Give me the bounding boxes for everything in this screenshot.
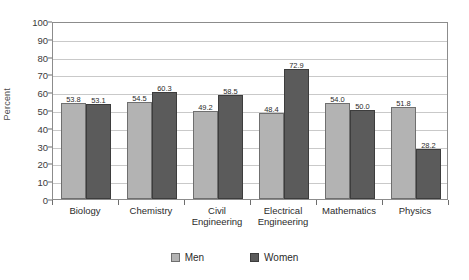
x-axis-tick-mark — [448, 200, 449, 205]
x-axis-tick-mark — [184, 200, 185, 205]
x-axis-tick-mark — [250, 200, 251, 205]
bar-women — [152, 92, 177, 199]
bar-men — [259, 113, 284, 199]
y-axis-tick-label: 50 — [2, 106, 48, 117]
y-axis-tick-label: 70 — [2, 70, 48, 81]
gridline — [53, 148, 447, 149]
legend-swatch-men — [171, 253, 180, 262]
x-axis-tick-mark — [382, 200, 383, 205]
bar-value-label: 48.4 — [264, 105, 279, 114]
bar-value-label: 54.5 — [132, 94, 147, 103]
bar-value-label: 28.2 — [421, 141, 436, 150]
bar-women — [86, 104, 111, 199]
plot-area: 53.853.154.560.349.258.548.472.954.050.0… — [52, 22, 448, 200]
bar-men — [391, 107, 416, 199]
y-axis-tick-label: 40 — [2, 123, 48, 134]
bar-value-label: 60.3 — [157, 84, 172, 93]
bar-men — [325, 103, 350, 199]
bar-value-label: 53.1 — [91, 96, 106, 105]
x-axis-category-label: Biology — [69, 205, 100, 216]
x-axis-tick-mark — [52, 200, 53, 205]
legend-item-women[interactable]: Women — [250, 252, 298, 263]
x-axis-category-label: Electrical Engineering — [258, 205, 309, 227]
x-axis-category-label: Physics — [399, 205, 432, 216]
bar-chart: Percent 1009080706050403020100 53.853.15… — [0, 0, 469, 280]
x-axis-category-label: Civil Engineering — [192, 205, 243, 227]
y-axis-tick-label: 0 — [2, 195, 48, 206]
gridline — [53, 59, 447, 60]
bar-women — [350, 110, 375, 199]
x-axis-category-label: Chemistry — [130, 205, 173, 216]
legend-item-men[interactable]: Men — [171, 252, 204, 263]
y-axis-tick-label: 60 — [2, 88, 48, 99]
bar-value-label: 53.8 — [66, 95, 81, 104]
y-axis-tick-label: 90 — [2, 34, 48, 45]
gridline — [53, 130, 447, 131]
bar-value-label: 54.0 — [330, 95, 345, 104]
chart-legend: MenWomen — [0, 252, 469, 263]
y-axis-tick-label: 20 — [2, 159, 48, 170]
bar-women — [284, 69, 309, 199]
bar-value-label: 49.2 — [198, 103, 213, 112]
bar-value-label: 51.8 — [396, 99, 411, 108]
bar-value-label: 50.0 — [355, 102, 370, 111]
y-axis-tick-label: 10 — [2, 177, 48, 188]
y-axis-tick-labels: 1009080706050403020100 — [0, 0, 48, 280]
bar-men — [127, 102, 152, 199]
bar-value-label: 58.5 — [223, 87, 238, 96]
gridline — [53, 183, 447, 184]
gridline — [53, 112, 447, 113]
y-axis-tick-label: 100 — [2, 17, 48, 28]
legend-label: Women — [264, 252, 298, 263]
bar-men — [193, 111, 218, 199]
x-axis-category-label: Mathematics — [322, 205, 376, 216]
legend-label: Men — [185, 252, 204, 263]
legend-swatch-women — [250, 253, 259, 262]
bar-value-label: 72.9 — [289, 61, 304, 70]
gridline — [53, 76, 447, 77]
x-axis-tick-mark — [118, 200, 119, 205]
y-axis-tick-label: 80 — [2, 52, 48, 63]
gridline — [53, 94, 447, 95]
bar-women — [218, 95, 243, 199]
y-axis-tick-label: 30 — [2, 141, 48, 152]
gridline — [53, 41, 447, 42]
bar-men — [61, 103, 86, 199]
bar-women — [416, 149, 441, 199]
x-axis-tick-mark — [316, 200, 317, 205]
gridline — [53, 165, 447, 166]
